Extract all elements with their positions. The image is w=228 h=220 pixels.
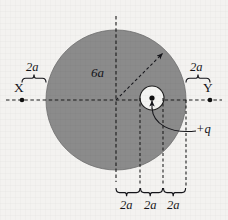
- label-dim-bottom-3: 2a: [167, 199, 180, 212]
- dim-brace-bottom-1: [116, 188, 140, 196]
- charge-dot: [149, 95, 154, 100]
- diagram-svg: [0, 0, 228, 220]
- label-dim-bottom-1: 2a: [120, 199, 133, 212]
- dim-brace-left: [22, 75, 46, 83]
- label-point-y: Y: [203, 81, 213, 95]
- point-x-dot: [20, 98, 25, 103]
- dim-brace-bottom-2: [141, 188, 163, 196]
- label-point-x: X: [14, 81, 24, 95]
- label-dim-right: 2a: [190, 61, 203, 74]
- label-dim-bottom-2: 2a: [144, 199, 157, 212]
- label-radius: 6a: [91, 66, 104, 79]
- label-charge: +q: [196, 123, 211, 136]
- dim-brace-bottom-3: [164, 188, 186, 196]
- figure-canvas: 2a 2a X Y 6a +q 2a 2a 2a: [0, 0, 228, 220]
- point-y-dot: [208, 98, 213, 103]
- label-dim-left: 2a: [26, 61, 39, 74]
